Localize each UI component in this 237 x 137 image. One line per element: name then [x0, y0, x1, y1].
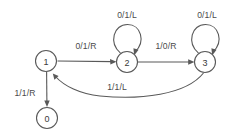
- transition-2-self-loop-label: 0/1/L: [117, 10, 137, 20]
- state-node-1[interactable]: 1: [36, 51, 57, 72]
- state-node-0[interactable]: 0: [37, 108, 58, 129]
- transition-3-self-loop: [192, 25, 219, 56]
- transition-1-to-0: [44, 72, 49, 107]
- transition-1-to-0-arrowhead: [44, 101, 49, 107]
- transition-1-to-2-line: [58, 61, 113, 62]
- state-1-label: 1: [43, 57, 48, 67]
- transition-2-to-3: [138, 59, 195, 64]
- transition-2-self-loop: [114, 25, 141, 56]
- transition-2-to-3-arrowhead: [188, 59, 194, 64]
- transition-1-to-2-label: 0/1/R: [75, 41, 96, 51]
- transition-1-to-0-label: 1/1/R: [14, 88, 35, 98]
- transition-2-self-loop-arc: [114, 25, 141, 54]
- transition-1-to-2: [58, 59, 117, 64]
- state-3-label: 3: [202, 58, 207, 68]
- state-node-3[interactable]: 3: [195, 52, 216, 73]
- transition-3-self-loop-label: 0/1/L: [197, 10, 217, 20]
- state-node-2[interactable]: 2: [117, 52, 138, 73]
- transition-1-to-2-arrowhead: [110, 59, 117, 64]
- transition-2-to-3-label: 1/0/R: [155, 41, 176, 51]
- transition-3-to-1-label: 1/1/L: [107, 82, 127, 92]
- transition-3-to-1: [53, 73, 204, 97]
- state-0-label: 0: [44, 114, 49, 124]
- state-diagram: 1 2 3 0 0/1/R 1/0/R 0/1/L 0/1/L 1/1/R 1/…: [0, 0, 237, 137]
- transition-3-to-1-curve: [56, 73, 204, 97]
- state-diagram-canvas: 1 2 3 0 0/1/R 1/0/R 0/1/L 0/1/L 1/1/R 1/…: [0, 0, 237, 137]
- state-2-label: 2: [124, 58, 129, 68]
- transition-3-self-loop-arc: [192, 25, 219, 54]
